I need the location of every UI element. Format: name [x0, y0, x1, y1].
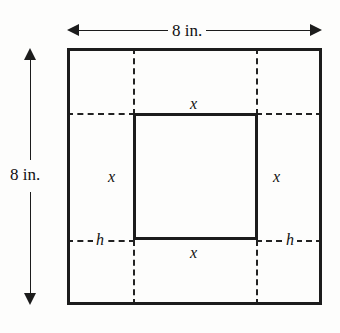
height-dimension-line-upper — [30, 60, 31, 160]
width-dimension-line-right — [205, 30, 310, 31]
arrow-up-icon — [24, 48, 36, 60]
arrow-down-icon — [24, 293, 36, 305]
height-dimension-label: 8 in. — [6, 166, 44, 183]
width-dimension-label: 8 in. — [168, 22, 206, 39]
label-h-right: h — [283, 232, 297, 248]
geometry-figure: 8 in. 8 in. x x x x h h — [0, 0, 340, 333]
label-x-right: x — [273, 169, 280, 185]
height-dimension-line-lower — [30, 192, 31, 293]
inner-square — [133, 113, 258, 240]
label-h-left: h — [93, 232, 107, 248]
arrow-right-icon — [310, 24, 322, 36]
label-x-bottom: x — [190, 245, 197, 261]
arrow-left-icon — [67, 24, 79, 36]
label-x-top: x — [190, 96, 197, 112]
label-x-left: x — [108, 169, 115, 185]
